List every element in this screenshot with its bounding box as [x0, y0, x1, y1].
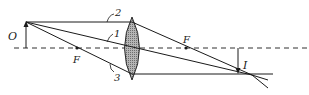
ray-2-label: 2 — [114, 7, 121, 18]
focal-label-left: F — [72, 54, 81, 65]
image-label: I — [242, 59, 248, 72]
focal-point-right — [184, 46, 187, 49]
object-label: O — [8, 30, 17, 43]
lens-ray-diagram: O F F I 2 1 3 — [0, 0, 309, 95]
ray-2-extension — [252, 75, 268, 88]
focal-point-left — [75, 46, 78, 49]
ray-3-label: 3 — [114, 72, 120, 83]
object-arrow — [24, 21, 29, 48]
ray-1 — [26, 22, 268, 80]
ray-1-label: 1 — [114, 28, 120, 39]
focal-label-right: F — [182, 34, 191, 45]
ray-2-leader — [107, 14, 114, 22]
